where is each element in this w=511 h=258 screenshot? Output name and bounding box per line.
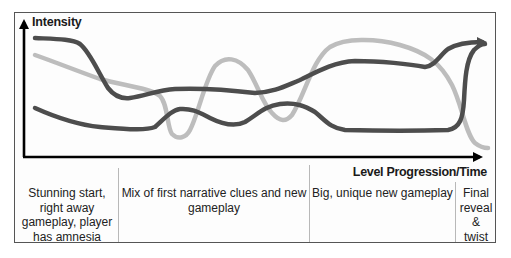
segment-line: gameplay, player — [16, 215, 118, 230]
segment-line: right away — [16, 201, 118, 216]
segment-line: has amnesia — [16, 230, 118, 245]
segment-line: & — [456, 215, 496, 230]
segment-narrative-clues: Mix of first narrative clues and new gam… — [119, 186, 309, 215]
segment-final-reveal: Final reveal & twist — [456, 186, 496, 244]
x-axis-label: Level Progression/Time — [353, 165, 487, 179]
segment-line: reveal — [456, 201, 496, 216]
segment-line: Stunning start, — [16, 186, 118, 201]
segment-separator — [309, 165, 310, 242]
y-axis-label: Intensity — [32, 15, 82, 29]
segment-line: gameplay — [119, 201, 309, 216]
dark-lower-curve — [35, 44, 485, 131]
segment-line: Mix of first narrative clues and new — [119, 186, 309, 201]
segment-stunning-start: Stunning start, right away gameplay, pla… — [16, 186, 118, 244]
segment-line: Final — [456, 186, 496, 201]
segment-line: twist — [456, 230, 496, 245]
segment-big-new-gameplay: Big, unique new gameplay — [310, 186, 455, 201]
segment-line: Big, unique new gameplay — [310, 186, 455, 201]
